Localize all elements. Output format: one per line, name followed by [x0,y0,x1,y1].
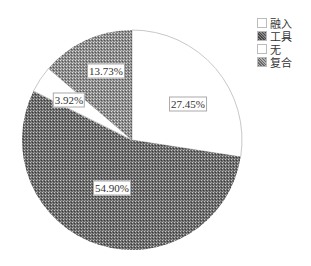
legend-swatch-white-icon [257,44,267,54]
legend-swatch-dark-hatch-icon [257,31,267,41]
slice-label-rongru: 27.45% [169,97,207,112]
slice-label-wu: 3.92% [53,93,85,108]
legend-swatch-white-icon [257,18,267,28]
legend-item-fuhe: 复合 [257,55,292,68]
slice-label-fuhe: 13.73% [87,64,125,79]
legend: 融入 工具 无 复合 [257,16,292,68]
legend-swatch-medium-hatch-icon [257,57,267,67]
legend-label: 复合 [270,54,292,70]
slice-rongru [132,30,242,157]
slice-label-gongju: 54.90% [93,181,131,196]
